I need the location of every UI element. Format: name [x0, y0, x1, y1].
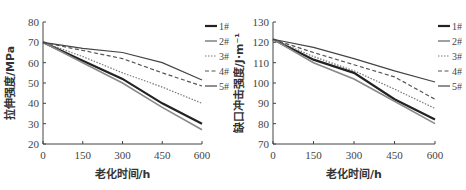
legend-label: 3#: [452, 51, 462, 62]
legend-label: 5#: [219, 81, 229, 92]
y-tick-label: 60: [28, 57, 40, 69]
x-tick-label: 0: [270, 149, 276, 161]
series-line: [43, 42, 202, 103]
y-tick-label: 80: [28, 16, 40, 28]
x-tick-label: 0: [40, 149, 46, 161]
y-tick-label: 110: [253, 57, 270, 69]
x-tick-label: 150: [75, 149, 92, 161]
y-axis-title: 拉伸强度/MPa: [3, 46, 17, 120]
legend-label: 2#: [452, 36, 462, 47]
y-tick-label: 120: [253, 36, 270, 48]
legend-label: 4#: [219, 66, 229, 77]
y-tick-label: 130: [253, 16, 270, 28]
legend-label: 4#: [452, 66, 462, 77]
series-line: [43, 42, 202, 80]
y-tick-label: 50: [28, 77, 40, 89]
chart-canvas: 203040506070800150300450600老化时间/h拉伸强度/MP…: [0, 0, 233, 190]
y-tick-label: 70: [258, 138, 270, 150]
y-tick-label: 80: [258, 118, 270, 130]
x-tick-label: 450: [154, 149, 171, 161]
series-line: [43, 42, 202, 129]
x-tick-label: 450: [386, 149, 403, 161]
legend-label: 1#: [219, 21, 229, 32]
legend-label: 1#: [452, 21, 462, 32]
legend-label: 2#: [219, 36, 229, 47]
y-axis-title: 缺口冲击强度/J·m⁻¹: [233, 33, 246, 135]
x-tick-label: 300: [114, 149, 131, 161]
x-tick-label: 300: [346, 149, 363, 161]
y-tick-label: 30: [28, 118, 40, 130]
y-tick-label: 100: [253, 77, 270, 89]
y-tick-label: 40: [28, 97, 40, 109]
chart-canvas: 7080901001101201300150300450600老化时间/h缺口冲…: [233, 0, 466, 190]
y-tick-label: 20: [28, 138, 40, 150]
legend-label: 5#: [452, 81, 462, 92]
impact-strength-chart: 7080901001101201300150300450600老化时间/h缺口冲…: [233, 0, 466, 190]
x-tick-label: 600: [194, 149, 211, 161]
tensile-strength-chart: 203040506070800150300450600老化时间/h拉伸强度/MP…: [0, 0, 233, 190]
y-tick-label: 70: [28, 36, 40, 48]
x-tick-label: 600: [427, 149, 444, 161]
series-line: [273, 39, 435, 99]
series-line: [273, 39, 435, 82]
y-tick-label: 90: [258, 97, 270, 109]
legend-label: 3#: [219, 51, 229, 62]
x-axis-title: 老化时间/h: [325, 167, 382, 181]
x-tick-label: 150: [305, 149, 322, 161]
x-axis-title: 老化时间/h: [94, 167, 151, 181]
